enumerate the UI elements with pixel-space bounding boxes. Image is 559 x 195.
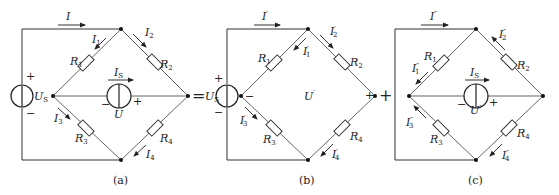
current-source-is [107,84,131,108]
i3-prime-label: I′3 [239,114,247,128]
node-bottom [474,158,478,162]
u-prime-label: U′ [304,89,315,103]
equals-operator: = [192,86,205,105]
i4-label: I4 [145,148,155,162]
is-plus-sign: + [489,96,498,109]
caption-a: (a) [113,174,128,187]
i1-double-prime-label: I″1 [411,62,419,76]
node-right [541,94,545,98]
i-prime-label: I′ [261,10,268,23]
node-right [186,94,190,98]
i1-label: I1 [91,33,101,47]
i2-double-prime-label: I″2 [498,28,506,42]
plus-operator: + [379,86,392,105]
node-top [119,27,123,31]
r4-label: R4 [159,132,173,146]
us-minus-sign: − [26,107,35,120]
node-bottom [306,158,310,162]
panel-b: + − US − + U′ R1 R2 R3 R4 I′ I′1 I′2 I′3… [205,10,377,187]
u-prime-plus-sign: + [365,89,374,102]
us-label: US [34,90,48,104]
is-minus-sign: − [101,98,110,111]
r2-label: R2 [349,56,363,70]
caption-c: (c) [468,174,483,187]
i4-prime-label: I′4 [331,148,340,162]
r4-label: R4 [516,127,530,141]
caption-b: (b) [299,174,315,187]
i4-double-prime-label: I″4 [501,149,510,163]
is-label: IS [469,66,479,80]
i3-double-prime-arrow [414,106,426,118]
node-top [474,27,478,31]
is-plus-sign: + [133,95,142,108]
node-top [306,27,310,31]
node-bottom [119,158,123,162]
us-plus-sign: + [26,70,35,83]
panel-a: + − US IS − + U R1 R2 R3 R4 I I1 I2 I3 I… [11,10,190,187]
us-minus-sign: − [214,106,223,119]
r1-label: R1 [423,50,437,64]
superposition-figure: + − US IS − + U R1 R2 R3 R4 I I1 I2 I3 I… [0,0,559,195]
r2-label: R2 [516,59,530,73]
u-prime-minus-sign: − [245,90,254,103]
r3-label: R3 [262,133,276,147]
resistor-r4 [501,120,517,136]
r3-label: R3 [74,132,88,146]
is-minus-sign: − [457,98,466,111]
u-label: U [114,108,124,121]
node-right [373,94,377,98]
voltage-source-us [11,85,33,107]
r2-label: R2 [159,58,173,72]
i-double-prime-label: I″ [429,10,437,23]
node-left [407,94,411,98]
i-label: I [65,10,71,23]
r3-label: R3 [429,133,443,147]
i3-label: I3 [53,112,63,126]
is-label: IS [113,66,123,80]
i3-double-prime-label: I″3 [405,116,413,130]
i4-double-prime-arrow [490,144,502,156]
i2-label: I2 [144,26,154,40]
panel-c: IS − + U″ R1 R2 R3 R4 I″ I″1 I″2 I″3 I″4… [395,10,545,187]
r1-label: R1 [69,55,83,69]
voltage-source-us [216,85,238,107]
resistor-r2 [501,54,517,70]
us-plus-sign: + [214,72,223,85]
i3-prime-arrow [245,107,257,119]
resistor-r4 [334,120,350,136]
node-left [51,94,55,98]
u-double-prime-label: U″ [470,104,482,117]
r4-label: R4 [349,130,363,144]
r1-label: R1 [257,52,271,66]
i1-prime-label: I′1 [302,45,310,59]
i4-arrow [134,145,146,156]
i2-prime-label: I′2 [329,25,337,39]
circuit-diagram: + − US IS − + U R1 R2 R3 R4 I I1 I2 I3 I… [0,0,559,195]
node-left [239,94,243,98]
resistor-r2 [334,54,350,70]
